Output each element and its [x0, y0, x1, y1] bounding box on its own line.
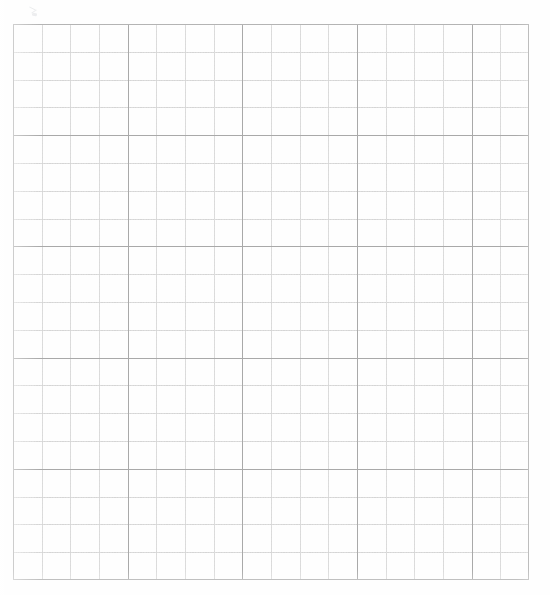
- grid-outer-border: [13, 24, 529, 580]
- graph-paper-page: [0, 0, 550, 595]
